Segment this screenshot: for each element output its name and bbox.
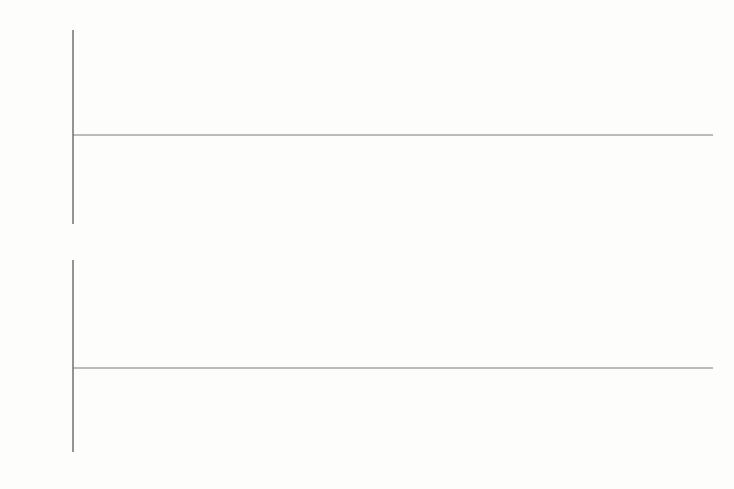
- top-chart-svg: [0, 0, 734, 245]
- chart-panel-top: [0, 0, 734, 245]
- bottom-chart-svg: [0, 245, 734, 489]
- chart-panel-bottom: [0, 245, 734, 489]
- figure-container: [0, 0, 734, 489]
